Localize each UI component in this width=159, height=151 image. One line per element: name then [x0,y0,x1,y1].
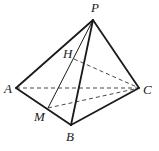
label-a: A [3,81,12,96]
label-b: B [66,129,74,144]
edge-pc [93,20,139,88]
tetrahedron-diagram: P A B C M H [0,0,159,151]
label-c: C [143,82,152,97]
label-p: P [90,0,99,15]
segment-pm [48,20,93,108]
label-h: H [62,46,73,61]
label-m: M [33,109,46,124]
edge-pm [48,20,93,108]
edge-mc [48,88,139,108]
edge-bc [71,88,139,125]
